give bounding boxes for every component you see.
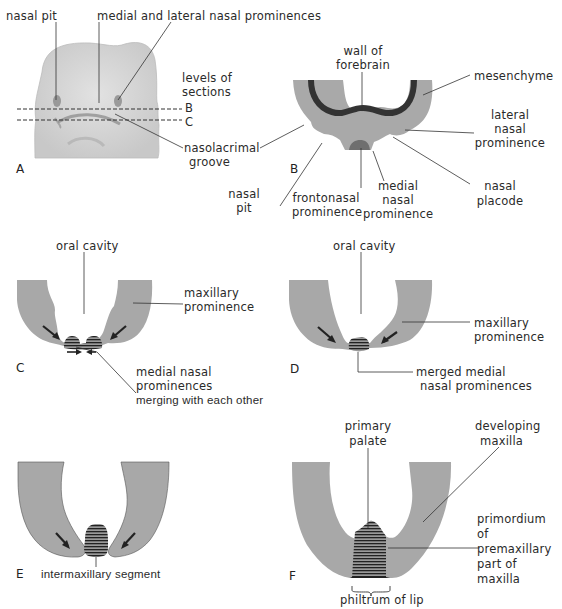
label-merging-c: merging with each other <box>136 394 263 407</box>
panel-d-section <box>289 252 470 372</box>
label-medial-nasal-c: medial nasal <box>136 366 212 379</box>
label-medial-lateral-nasal-prominences: medial and lateral nasal prominences <box>97 10 321 23</box>
label-philtrum-of-lip: philtrum of lip <box>340 594 424 607</box>
label-lateral-nasal: nasal <box>470 123 550 136</box>
label-medial: medial <box>363 180 433 193</box>
label-primordium: primordium <box>477 513 546 526</box>
label-palate: palate <box>340 435 396 448</box>
label-nasolacrimal: nasolacrimal <box>184 142 260 155</box>
label-frontonasal: frontonasal <box>292 192 360 205</box>
label-maxillary-c: maxillary <box>184 287 239 300</box>
panel-f-section <box>292 447 499 596</box>
label-nasal: nasal <box>224 188 264 201</box>
label-nasal-pit: nasal pit <box>6 10 57 23</box>
label-maxillary-prominence-d: prominence <box>474 331 544 344</box>
label-groove: groove <box>189 156 230 169</box>
label-intermaxillary-segment: intermaxillary segment <box>41 568 160 581</box>
label-maxilla-premaxillary: maxilla <box>477 573 520 586</box>
label-level-b: B <box>185 102 193 115</box>
panel-e-section <box>18 462 169 567</box>
panel-a-face <box>17 22 183 158</box>
label-maxillary-prominence-c: prominence <box>184 301 254 314</box>
panel-letter-f: F <box>289 569 296 583</box>
label-prominences-c: prominences <box>136 380 212 393</box>
label-forebrain: forebrain <box>331 59 395 72</box>
label-nasal-prominences-d: nasal prominences <box>420 380 532 393</box>
panel-letter-d: D <box>290 362 299 376</box>
label-frontonasal-prominence: prominence <box>292 206 360 219</box>
label-part-of: part of <box>477 558 517 571</box>
label-nasal-placode-1: nasal <box>470 180 530 193</box>
label-maxillary-d: maxillary <box>474 317 529 330</box>
label-developing: developing <box>475 420 541 433</box>
label-medial-prominence: prominence <box>363 208 433 221</box>
label-levels-of: levels of <box>182 72 232 85</box>
label-placode: placode <box>470 195 530 208</box>
label-pit: pit <box>224 202 264 215</box>
panel-letter-c: C <box>16 361 24 375</box>
label-primary: primary <box>340 420 396 433</box>
panel-letter-b: B <box>290 162 298 176</box>
label-level-c: C <box>185 116 193 129</box>
label-medial-nasal: nasal <box>363 194 433 207</box>
label-oral-cavity-c: oral cavity <box>56 240 119 253</box>
label-merged-medial: merged medial <box>416 366 506 379</box>
panel-letter-a: A <box>16 162 24 176</box>
label-maxilla-f: maxilla <box>480 435 523 448</box>
panel-letter-e: E <box>16 567 24 581</box>
label-of: of <box>477 528 489 541</box>
label-sections: sections <box>182 86 231 99</box>
label-mesenchyme: mesenchyme <box>474 70 553 83</box>
label-wall-of: wall of <box>336 45 390 58</box>
label-oral-cavity-d: oral cavity <box>333 240 396 253</box>
label-lateral: lateral <box>470 109 550 122</box>
label-lateral-prominence: prominence <box>470 137 550 150</box>
label-premaxillary: premaxillary <box>477 543 551 556</box>
